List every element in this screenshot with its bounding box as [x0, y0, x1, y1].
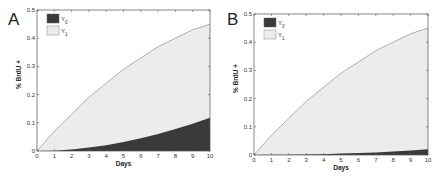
x-tick-label: 6 [357, 157, 361, 163]
x-tick-label: 3 [305, 157, 309, 163]
x-tick-label: 8 [392, 157, 396, 163]
y-tick-label: 0.3 [244, 67, 253, 73]
x-axis-label: Days [116, 160, 132, 168]
legend-swatch-y1 [47, 26, 59, 35]
panel-label: B [227, 10, 238, 29]
x-tick-label: 10 [425, 157, 432, 163]
x-tick-label: 7 [374, 157, 378, 163]
x-tick-label: 9 [191, 153, 195, 159]
x-tick-label: 3 [87, 153, 91, 159]
y-axis-label: % BrdU + [15, 60, 22, 89]
x-tick-label: 1 [53, 153, 57, 159]
panel-label: A [8, 10, 20, 29]
y-tick-label: 0.1 [27, 120, 36, 126]
x-tick-label: 2 [70, 153, 74, 159]
y-tick-label: 0.4 [244, 39, 253, 45]
x-tick-label: 2 [287, 157, 291, 163]
legend-label-y0: Y0 [61, 16, 68, 25]
legend-label-y0: Y0 [278, 20, 285, 29]
x-tick-label: 6 [139, 153, 143, 159]
chart-panel-b: 01234567891000.10.20.30.40.5Days% BrdU +… [227, 10, 432, 172]
legend-label-y1: Y1 [278, 32, 285, 41]
x-tick-label: 4 [105, 153, 109, 159]
chart-panel-a: 01234567891000.10.20.30.40.5Days% BrdU +… [8, 7, 214, 168]
legend-swatch-y0 [47, 14, 59, 23]
x-tick-label: 0 [35, 153, 39, 159]
legend-label-y1: Y1 [61, 28, 68, 37]
x-axis-label: Days [333, 164, 349, 172]
x-tick-label: 1 [270, 157, 274, 163]
y-tick-label: 0.2 [27, 92, 36, 98]
y-tick-label: 0.2 [244, 96, 253, 102]
y-tick-label: 0.5 [244, 11, 253, 17]
y-axis-label: % BrdU + [232, 64, 239, 93]
y-tick-label: 0.4 [27, 35, 36, 41]
x-tick-label: 5 [122, 153, 126, 159]
y1-area [254, 28, 428, 155]
x-tick-label: 4 [322, 157, 326, 163]
x-tick-label: 5 [339, 157, 343, 163]
x-tick-label: 7 [156, 153, 160, 159]
y-tick-label: 0.5 [27, 7, 36, 13]
y-tick-label: 0.1 [244, 124, 253, 130]
x-tick-label: 10 [207, 153, 214, 159]
x-tick-label: 9 [409, 157, 413, 163]
x-tick-label: 8 [174, 153, 178, 159]
legend-swatch-y1 [264, 30, 276, 39]
x-tick-label: 0 [252, 157, 256, 163]
legend-swatch-y0 [264, 18, 276, 27]
figure: 01234567891000.10.20.30.40.5Days% BrdU +… [0, 0, 441, 179]
y-tick-label: 0.3 [27, 63, 36, 69]
